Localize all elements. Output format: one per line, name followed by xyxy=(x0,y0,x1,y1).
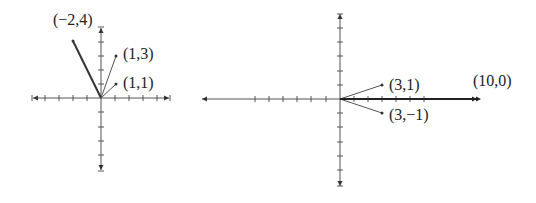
left-vectors xyxy=(72,40,118,99)
label-neg2-4: (−2,4) xyxy=(53,11,93,29)
vector-3-1 xyxy=(340,85,382,99)
left-plot: (−2,4) (1,3) (1,1) xyxy=(32,11,170,171)
vector-neg2-4 xyxy=(73,41,101,98)
label-10-0: (10,0) xyxy=(473,72,512,90)
label-3-neg1: (3,−1) xyxy=(389,106,429,124)
label-3-1: (3,1) xyxy=(389,76,420,94)
left-y-axis xyxy=(98,27,104,171)
right-plot: (3,1) (3,−1) (10,0) xyxy=(202,14,512,186)
vector-diagram: (−2,4) (1,3) (1,1) xyxy=(0,0,536,203)
label-1-1: (1,1) xyxy=(123,74,154,92)
vector-3-neg1 xyxy=(340,99,382,113)
label-1-3: (1,3) xyxy=(123,45,154,63)
vector-1-3 xyxy=(101,56,116,98)
